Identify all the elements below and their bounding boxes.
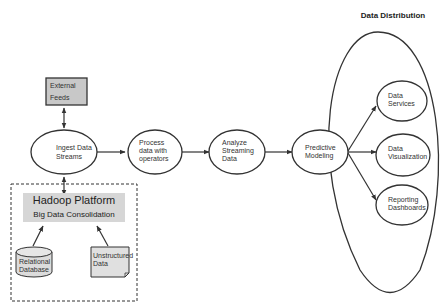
node-unstructured-data[interactable]: Unstructured Data <box>91 247 133 277</box>
process-line3: operators <box>139 155 169 163</box>
visualization-line1: Data <box>388 145 403 152</box>
node-predictive-modeling[interactable]: Predictive Modeling <box>292 130 348 174</box>
node-ingest-data-streams[interactable]: Ingest Data Streams <box>31 130 97 174</box>
reporting-line2: Dashboards <box>388 204 426 211</box>
analyze-line3: Data <box>222 155 237 162</box>
process-line2: data with <box>139 147 167 154</box>
data-distribution-title: Data Distribution <box>361 11 426 20</box>
predictive-line2: Modeling <box>305 152 334 160</box>
edge-db-hadoop <box>33 226 43 246</box>
hadoop-subtitle: Big Data Consolidation <box>33 210 114 219</box>
external-feeds-line1: External <box>50 82 76 89</box>
unstructured-line2: Data <box>93 260 108 267</box>
reporting-line1: Reporting <box>388 196 418 204</box>
ingest-line2: Streams <box>56 153 83 160</box>
hadoop-title: Hadoop Platform <box>33 194 116 206</box>
db-line1: Relational <box>19 258 51 265</box>
node-relational-database[interactable]: Relational Database <box>16 247 52 277</box>
analyze-line1: Analyze <box>222 139 247 147</box>
node-analyze-streaming[interactable]: Analyze Streaming Data <box>209 130 265 174</box>
analyze-line2: Streaming <box>222 147 254 155</box>
edge-unstructured-hadoop <box>97 226 108 246</box>
ingest-line1: Ingest Data <box>56 144 92 152</box>
db-line2: Database <box>19 266 49 273</box>
predictive-line1: Predictive <box>305 144 336 151</box>
edge-predictive-services <box>348 106 376 151</box>
edge-predictive-reporting <box>348 153 376 200</box>
node-hadoop-platform[interactable]: Hadoop Platform Big Data Consolidation <box>23 193 125 222</box>
process-line1: Process <box>139 139 165 146</box>
node-data-visualization[interactable]: Data Visualization <box>376 134 430 176</box>
node-external-feeds[interactable]: External Feeds <box>46 78 87 105</box>
node-data-services[interactable]: Data Services <box>377 81 427 121</box>
external-feeds-line2: Feeds <box>50 94 70 101</box>
node-reporting-dashboards[interactable]: Reporting Dashboards <box>376 185 428 225</box>
services-line2: Services <box>388 100 415 107</box>
diagram-canvas: Data Distribution External Feeds Ingest … <box>0 0 447 307</box>
visualization-line2: Visualization <box>388 153 427 160</box>
services-line1: Data <box>388 92 403 99</box>
unstructured-line1: Unstructured <box>93 252 133 259</box>
node-process-data[interactable]: Process data with operators <box>128 130 182 174</box>
